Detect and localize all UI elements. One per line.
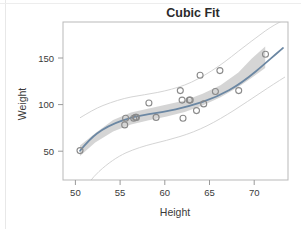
x-axis-label: Height [160,206,190,218]
x-tick-label-55: 55 [115,187,126,198]
y-tick-label-100: 100 [38,99,54,110]
plot-background [63,22,288,180]
y-axis-ticks [58,58,63,151]
cubic-fit-chart: Cubic Fit [0,0,301,229]
x-axis-ticks [75,180,254,185]
page-border-left [5,0,6,229]
page-border-top [0,3,301,4]
x-tick-label-70: 70 [249,187,260,198]
chart-figure: Cubic Fit [0,0,301,229]
x-tick-label-60: 60 [160,187,171,198]
y-tick-label-50: 50 [43,146,54,157]
y-axis-label: Weight [16,88,28,121]
x-tick-label-65: 65 [204,187,215,198]
chart-title: Cubic Fit [166,6,220,20]
x-tick-label-50: 50 [70,187,81,198]
y-tick-label-150: 150 [38,53,54,64]
